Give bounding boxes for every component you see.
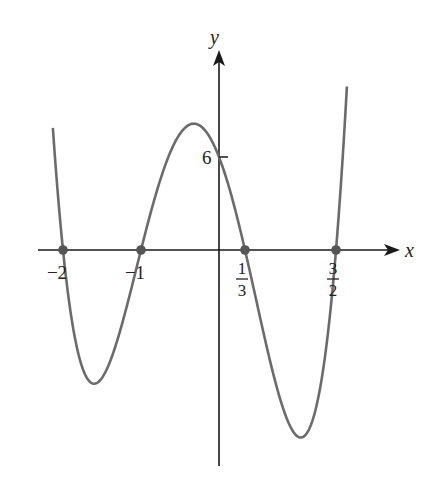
- root-point: [136, 245, 146, 255]
- x-axis-label: x: [404, 239, 414, 261]
- y-tick-label: 6: [202, 147, 212, 168]
- curve-layer: [53, 87, 347, 438]
- root-label-numerator: 1: [238, 259, 247, 278]
- function-curve: [53, 87, 347, 438]
- root-label-numerator: 3: [329, 259, 338, 278]
- root-point: [331, 245, 341, 255]
- y-axis-label: y: [208, 26, 219, 49]
- root-label: −2: [47, 262, 67, 283]
- root-label-denominator: 2: [329, 281, 338, 300]
- points-layer: −2−11332: [47, 245, 341, 300]
- root-point: [240, 245, 250, 255]
- polynomial-graph: x y 6 −2−11332: [0, 0, 440, 492]
- root-point: [58, 245, 68, 255]
- axes: x y: [38, 26, 414, 466]
- root-label-denominator: 3: [238, 281, 247, 300]
- root-label: −1: [125, 262, 145, 283]
